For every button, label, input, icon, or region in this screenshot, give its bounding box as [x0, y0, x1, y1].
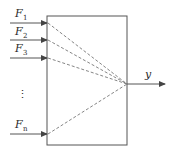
svg-text:1: 1 [23, 14, 27, 22]
svg-text:F: F [14, 25, 23, 38]
system-box [47, 16, 127, 145]
svg-text:n: n [23, 125, 28, 133]
input-label-1: F 1 [14, 7, 27, 22]
svg-text:F: F [14, 42, 23, 55]
svg-text:F: F [14, 7, 23, 20]
vertical-ellipsis: ⋮ [17, 88, 28, 101]
input-label-3: F 3 [14, 42, 27, 57]
svg-text:2: 2 [23, 32, 27, 40]
svg-text:F: F [14, 118, 23, 131]
svg-text:3: 3 [23, 49, 27, 57]
block-diagram: F 1 F 2 F 3 F n ⋮ y [0, 0, 176, 155]
dashed-path-1 [48, 23, 127, 84]
input-label-2: F 2 [14, 25, 27, 40]
dashed-path-n [48, 84, 127, 134]
output-label: y [144, 68, 152, 81]
input-label-n: F n [14, 118, 28, 133]
